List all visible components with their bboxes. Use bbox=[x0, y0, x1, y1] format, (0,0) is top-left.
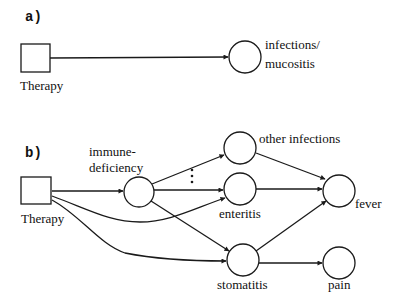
edge-otherinfections-fever bbox=[256, 153, 325, 179]
label-enteritis: enteritis bbox=[219, 206, 261, 221]
node-other-infections bbox=[224, 132, 256, 164]
node-stomatitis bbox=[227, 244, 259, 276]
edge-immunedeficiency-stomatitis bbox=[151, 201, 229, 251]
node-fever bbox=[323, 175, 355, 207]
label-therapy-a: Therapy bbox=[20, 78, 63, 93]
label-therapy-b: Therapy bbox=[21, 211, 64, 226]
label-other-infections: other infections bbox=[259, 131, 340, 146]
node-pain bbox=[323, 247, 355, 279]
edge-therapy-stomatitis bbox=[52, 200, 226, 261]
node-enteritis bbox=[224, 173, 256, 205]
panel-label-a: a) bbox=[25, 9, 42, 25]
node-infections-mucositis bbox=[229, 41, 261, 73]
diagram-canvas: a) b) Therapy infections/ mucositis Ther… bbox=[0, 0, 406, 292]
label-infections-line2: mucositis bbox=[265, 56, 315, 71]
diagram-graphics bbox=[0, 0, 406, 292]
node-immunedeficiency bbox=[124, 177, 154, 207]
edge-therapy-infections bbox=[50, 57, 228, 58]
label-immune-line1: immune- bbox=[89, 144, 136, 159]
node-therapy-a bbox=[21, 44, 50, 72]
panel-label-b: b) bbox=[25, 145, 42, 161]
ellipsis-dots bbox=[191, 169, 194, 184]
label-infections-line1: infections/ bbox=[265, 37, 320, 52]
label-immune-line2: deficiency bbox=[89, 160, 143, 175]
label-fever: fever bbox=[355, 196, 382, 211]
edge-immunedeficiency-otherinfections bbox=[152, 155, 224, 184]
node-therapy-b bbox=[21, 177, 51, 204]
edge-stomatitis-fever bbox=[256, 201, 326, 251]
label-pain: pain bbox=[328, 277, 350, 292]
label-stomatitis: stomatitis bbox=[217, 277, 268, 292]
